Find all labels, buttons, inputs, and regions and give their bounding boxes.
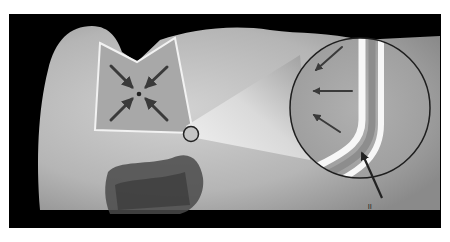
- margin-selection-circle: [184, 127, 199, 142]
- pointer-label: ll: [368, 203, 372, 210]
- tooth-diagram: [0, 0, 450, 242]
- center-dot: [137, 92, 142, 97]
